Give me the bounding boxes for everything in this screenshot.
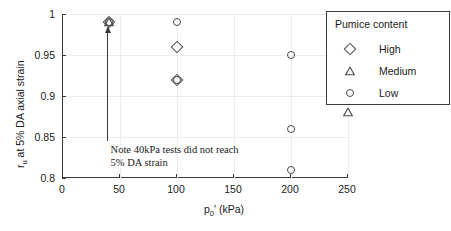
arrow-shaft bbox=[107, 32, 108, 141]
x-axis-tick bbox=[290, 174, 291, 178]
legend-title: Pumice content bbox=[335, 18, 407, 30]
y-tick-label: 0.8 bbox=[0, 172, 55, 184]
marker-circle bbox=[173, 76, 181, 84]
arrow-head bbox=[105, 26, 111, 33]
x-axis-tick bbox=[119, 174, 120, 178]
legend-label: Low bbox=[379, 87, 398, 99]
marker-circle bbox=[105, 18, 113, 26]
chart-figure: 0501001502002500.80.850.90.951 p0' (kPa)… bbox=[0, 0, 451, 231]
x-axis-tick bbox=[347, 174, 348, 178]
marker-triangle bbox=[343, 108, 353, 117]
legend-item-high[interactable]: High bbox=[327, 38, 449, 60]
marker-circle bbox=[173, 18, 181, 26]
x-tick-label: 150 bbox=[224, 183, 242, 195]
legend-item-low[interactable]: Low bbox=[327, 82, 449, 104]
x-axis-label: p0' (kPa) bbox=[204, 203, 244, 218]
gridline-horizontal bbox=[63, 14, 348, 15]
y-axis-tick bbox=[62, 96, 66, 97]
note-line-1: Note 40kPa tests did not reach bbox=[111, 144, 239, 157]
y-axis-tick bbox=[62, 137, 66, 138]
x-tick-label: 250 bbox=[338, 183, 356, 195]
marker-circle bbox=[287, 166, 295, 174]
y-tick-label: 1 bbox=[0, 8, 55, 20]
marker-triangle bbox=[345, 67, 355, 76]
x-tick-label: 50 bbox=[113, 183, 125, 195]
x-axis-tick bbox=[233, 174, 234, 178]
x-tick-label: 200 bbox=[281, 183, 299, 195]
marker-diamond bbox=[173, 42, 182, 51]
legend-label: High bbox=[379, 43, 401, 55]
y-axis-tick bbox=[62, 14, 66, 15]
gridline-horizontal bbox=[63, 55, 348, 56]
note-line-2: 5% DA strain bbox=[111, 157, 239, 170]
y-axis-tick bbox=[62, 178, 66, 179]
annotation-note: Note 40kPa tests did not reach 5% DA str… bbox=[111, 144, 239, 169]
x-tick-label: 0 bbox=[59, 183, 65, 195]
marker-circle bbox=[346, 89, 354, 97]
marker-circle bbox=[287, 125, 295, 133]
legend-item-medium[interactable]: Medium bbox=[327, 60, 449, 82]
x-tick-label: 100 bbox=[167, 183, 185, 195]
marker-circle bbox=[287, 51, 295, 59]
x-axis-tick bbox=[176, 174, 177, 178]
legend: Pumice content HighMediumLow bbox=[326, 11, 450, 105]
y-axis-label: ru at 5% DA axial strain bbox=[14, 61, 29, 168]
gridline-horizontal bbox=[63, 137, 348, 138]
marker-diamond bbox=[346, 45, 355, 54]
gridline-horizontal bbox=[63, 96, 348, 97]
y-axis-tick bbox=[62, 55, 66, 56]
y-tick-label: 0.95 bbox=[0, 49, 55, 61]
legend-label: Medium bbox=[379, 65, 416, 77]
